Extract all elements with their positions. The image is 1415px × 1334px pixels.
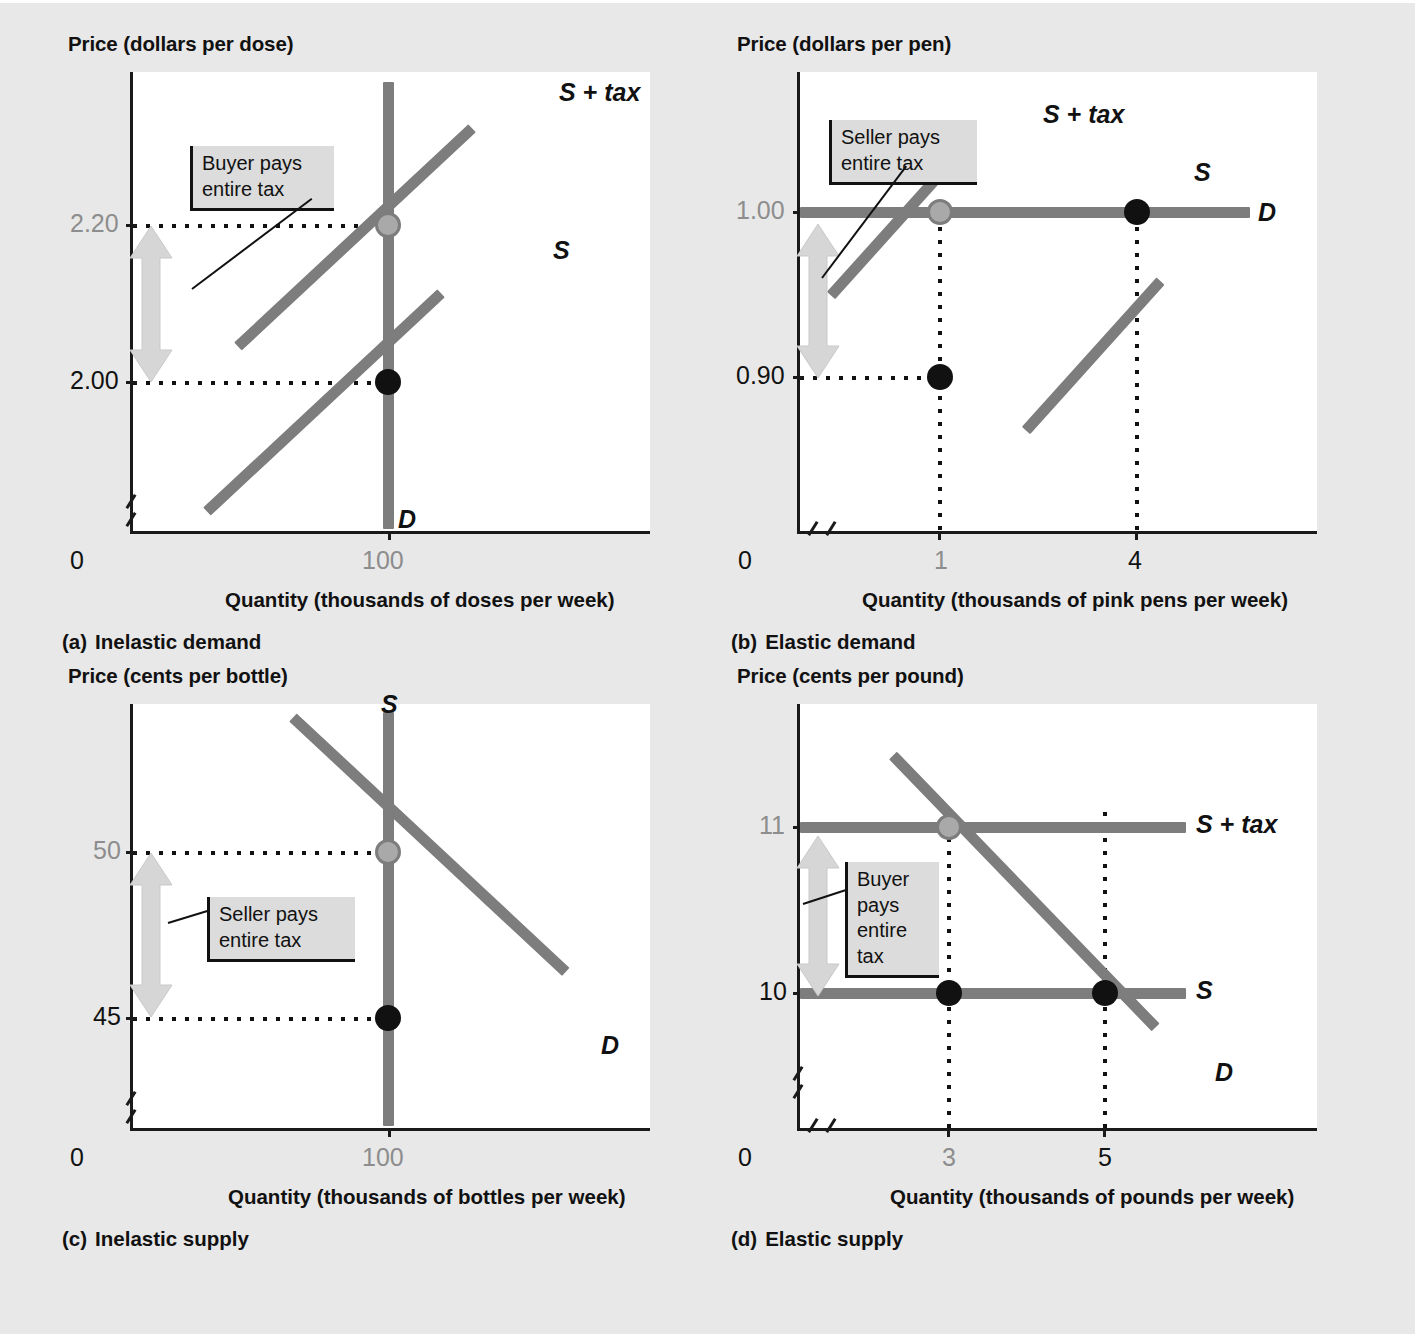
panel-b-curve-label-d: D — [1258, 198, 1276, 227]
panel-d-ylabel-10: 10 — [759, 977, 787, 1006]
panel-b-equilibrium-dot-with-tax — [927, 199, 953, 225]
panel-d-callout-line3: entire — [857, 918, 927, 944]
panel-b-xtick-1 — [938, 531, 941, 540]
panel-d-caption: (d)Elastic supply — [731, 1227, 903, 1251]
panel-d-curve-label-d: D — [1215, 1058, 1233, 1087]
panel-a-caption: (a)Inelastic demand — [62, 630, 261, 654]
panel-d-xtick-3 — [947, 1128, 950, 1137]
panel-b-ylabel-100: 1.00 — [736, 196, 785, 225]
panel-d-caption-label: (d) — [731, 1227, 757, 1250]
panel-b-seller-price-dot — [927, 364, 953, 390]
panel-b-xlabel-0: 0 — [738, 546, 752, 575]
panel-d-equilibrium-dot — [1092, 980, 1118, 1006]
panel-a-y-axis-title: Price (dollars per dose) — [68, 32, 293, 56]
panel-b-caption: (b)Elastic demand — [731, 630, 916, 654]
panel-b-xlabel-1: 1 — [934, 546, 948, 575]
panel-d-tax-arrow — [795, 834, 841, 998]
panel-d-x-axis-title: Quantity (thousands of pounds per week) — [890, 1185, 1294, 1209]
panel-d-callout: Buyer pays entire tax — [845, 862, 939, 978]
panel-b-caption-label: (b) — [731, 630, 757, 653]
panel-c-caption-text: Inelastic supply — [95, 1227, 249, 1250]
panel-b-caption-text: Elastic demand — [765, 630, 915, 653]
panel-c-callout-line1: Seller pays — [219, 902, 343, 928]
panel-b-callout-line2: entire tax — [841, 151, 965, 177]
panel-c-tax-arrow — [128, 851, 174, 1019]
panel-b-equilibrium-dot — [1124, 199, 1150, 225]
panel-b-y-axis-title: Price (dollars per pen) — [737, 32, 951, 56]
panel-d-curve-label-s-plus-tax: S + tax — [1196, 810, 1277, 839]
panel-a-xlabel-0: 0 — [70, 546, 84, 575]
panel-b-callout-line1: Seller pays — [841, 125, 965, 151]
panel-c-curve-label-d: D — [601, 1031, 619, 1060]
panel-c-equilibrium-dot-with-tax — [375, 839, 401, 865]
panel-a-xtick-100 — [388, 531, 391, 540]
panel-b-tax-arrow — [795, 222, 841, 380]
panel-c-ylabel-45: 45 — [93, 1002, 121, 1031]
panel-c-xtick-100 — [388, 1128, 391, 1137]
panel-a-callout: Buyer pays entire tax — [190, 146, 334, 211]
panel-a-xlabel-100: 100 — [362, 546, 404, 575]
panel-c-caption: (c)Inelastic supply — [62, 1227, 249, 1251]
panel-b-callout: Seller pays entire tax — [829, 120, 977, 185]
panel-a-callout-line1: Buyer pays — [202, 151, 322, 177]
panel-d-xlabel-0: 0 — [738, 1143, 752, 1172]
panel-b-xlabel-4: 4 — [1128, 546, 1142, 575]
panel-d-x-axis — [797, 1128, 1317, 1131]
panel-b-curve-label-s-plus-tax: S + tax — [1043, 100, 1124, 129]
panel-c-ylabel-50: 50 — [93, 836, 121, 865]
panel-a-curve-label-s: S — [553, 236, 570, 265]
panel-c-seller-price-dot — [375, 1005, 401, 1031]
panel-d-supply-plus-tax-curve — [800, 822, 1186, 833]
panel-c-xlabel-0: 0 — [70, 1143, 84, 1172]
panel-a-curve-label-s-plus-tax: S + tax — [559, 78, 640, 107]
panel-b-curve-label-s: S — [1194, 158, 1211, 187]
panel-a-caption-text: Inelastic demand — [95, 630, 261, 653]
panel-c-caption-label: (c) — [62, 1227, 87, 1250]
panel-d-curve-label-s: S — [1196, 976, 1213, 1005]
panel-d-callout-line4: tax — [857, 944, 927, 970]
panel-a-ylabel-220: 2.20 — [70, 209, 119, 238]
panel-b-ylabel-090: 0.90 — [736, 361, 785, 390]
panel-c-y-axis-title: Price (cents per bottle) — [68, 664, 288, 688]
panel-d-caption-text: Elastic supply — [765, 1227, 903, 1250]
panel-b-x-axis — [797, 531, 1317, 534]
panel-a-equilibrium-dot-with-tax — [375, 212, 401, 238]
panel-b-quantity-line-4 — [1135, 214, 1139, 532]
panel-b-x-axis-title: Quantity (thousands of pink pens per wee… — [862, 588, 1288, 612]
panel-d-callout-line2: pays — [857, 893, 927, 919]
panel-a-tax-arrow — [128, 224, 174, 384]
panel-a-x-axis-title: Quantity (thousands of doses per week) — [225, 588, 615, 612]
panel-d-xlabel-3: 3 — [942, 1143, 956, 1172]
panel-d-quantity-dot-3 — [936, 980, 962, 1006]
panel-a-demand-curve — [383, 82, 394, 529]
panel-d-callout-line1: Buyer — [857, 867, 927, 893]
panel-a-callout-line2: entire tax — [202, 177, 322, 203]
panel-a-ylabel-200: 2.00 — [70, 366, 119, 395]
panel-d-ylabel-11: 11 — [759, 811, 785, 840]
panel-d-y-axis-title: Price (cents per pound) — [737, 664, 964, 688]
panel-a-equilibrium-dot — [375, 369, 401, 395]
panel-c-curve-label-s: S — [381, 690, 398, 719]
panel-d-xtick-5 — [1103, 1128, 1106, 1137]
panel-c-xlabel-100: 100 — [362, 1143, 404, 1172]
panel-a-curve-label-d: D — [398, 505, 416, 534]
panel-c-supply-curve — [383, 712, 394, 1126]
panel-c-callout: Seller pays entire tax — [207, 897, 355, 962]
panel-b-xtick-4 — [1135, 531, 1138, 540]
panel-d-xlabel-5: 5 — [1098, 1143, 1112, 1172]
panel-d-equilibrium-dot-with-tax — [936, 814, 962, 840]
panel-c-x-axis-title: Quantity (thousands of bottles per week) — [228, 1185, 626, 1209]
panel-d-quantity-line-3 — [947, 812, 951, 1130]
panel-a-caption-label: (a) — [62, 630, 87, 653]
panel-c-callout-line2: entire tax — [219, 928, 343, 954]
